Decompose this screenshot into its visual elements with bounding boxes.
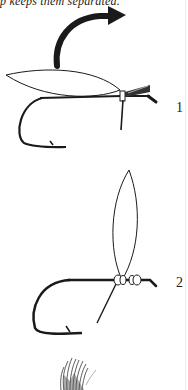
page-edge-divider <box>185 0 186 390</box>
figure-3-partial <box>0 355 188 390</box>
hackle-feather-illustration <box>0 355 188 390</box>
arrow-head-icon <box>108 6 126 25</box>
figure-2: 2 <box>0 150 188 350</box>
figure-label-1: 1 <box>176 100 183 116</box>
fly-step-2-illustration <box>0 150 188 350</box>
figure-1: 1 <box>0 0 188 155</box>
figure-label-2: 2 <box>176 275 183 291</box>
fly-step-1-illustration <box>0 0 188 155</box>
